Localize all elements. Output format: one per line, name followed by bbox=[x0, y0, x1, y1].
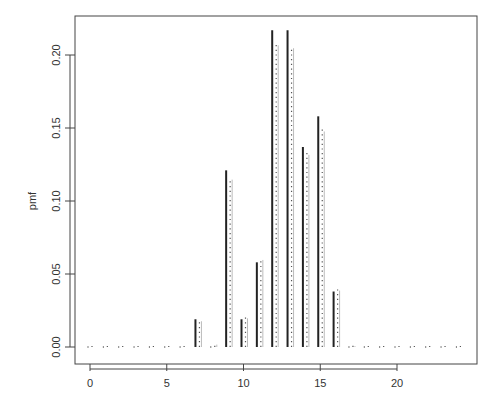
x-tick-label: 5 bbox=[164, 377, 170, 389]
y-tick-label: 0.00 bbox=[50, 336, 62, 357]
x-tick-label: 15 bbox=[314, 377, 326, 389]
x-axis: 05101520 bbox=[87, 364, 403, 389]
pmf-chart: 05101520 0.000.050.100.150.20 pmf bbox=[0, 0, 499, 406]
y-axis: 0.000.050.100.150.20 bbox=[50, 44, 75, 357]
y-tick-label: 0.05 bbox=[50, 263, 62, 284]
y-tick-label: 0.20 bbox=[50, 44, 62, 65]
x-tick-label: 20 bbox=[391, 377, 403, 389]
y-axis-label: pmf bbox=[26, 191, 38, 210]
bars-layer bbox=[88, 30, 461, 347]
y-tick-label: 0.10 bbox=[50, 190, 62, 211]
plot-frame bbox=[75, 16, 477, 364]
x-tick-label: 0 bbox=[87, 377, 93, 389]
plot-border bbox=[75, 16, 477, 364]
x-tick-label: 10 bbox=[237, 377, 249, 389]
y-tick-label: 0.15 bbox=[50, 117, 62, 138]
